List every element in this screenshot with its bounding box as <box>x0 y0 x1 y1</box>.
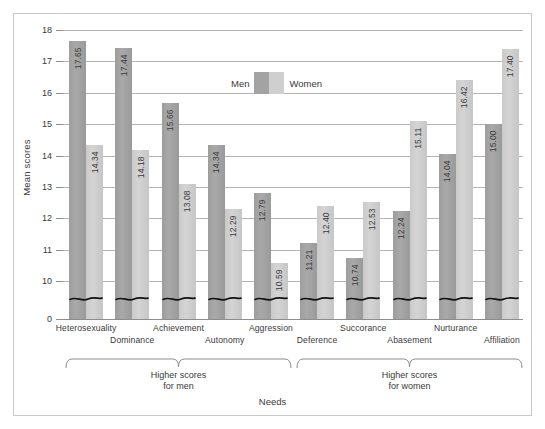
bar-value-label: 17.44 <box>120 54 129 76</box>
bar-value-label: 14.34 <box>212 151 221 173</box>
x-axis-label-heterosexuality: Heterosexuality <box>56 323 117 333</box>
bar-women-achievement: 13.08 <box>179 184 196 319</box>
y-tick-mark <box>56 124 63 125</box>
bar-value-label: 15.66 <box>166 110 175 132</box>
y-tick-mark <box>56 187 63 188</box>
bar-value-label: 13.08 <box>183 191 192 213</box>
bar-women-aggression: 10.59 <box>271 263 288 320</box>
bar-value-label: 14.34 <box>90 151 99 173</box>
y-tick-label: 18 <box>26 26 52 35</box>
bar-women-autonomy: 12.29 <box>225 209 242 319</box>
y-tick-mark <box>56 93 63 94</box>
bar-value-label: 17.40 <box>506 55 515 77</box>
bracket-label-women: Higher scoresfor women <box>382 370 438 392</box>
bar-value-label: 15.00 <box>489 130 498 152</box>
bar-value-label: 12.24 <box>397 217 406 239</box>
y-tick-label: 13 <box>26 182 52 191</box>
bar-women-deference: 12.40 <box>317 206 334 319</box>
bar-value-label: 12.53 <box>368 208 377 230</box>
x-axis-label-affiliation: Affiliation <box>484 335 520 345</box>
bracket-caption-line2: for men <box>151 381 207 392</box>
bar-value-label: 14.18 <box>137 156 146 178</box>
y-tick-mark <box>56 218 63 219</box>
x-axis-label-deference: Deference <box>297 335 338 345</box>
legend-swatch-women <box>269 72 284 94</box>
legend-swatch-men <box>254 72 269 94</box>
bar-value-label: 10.59 <box>275 269 284 291</box>
bracket-label-men: Higher scoresfor men <box>151 370 207 392</box>
bar-value-label: 11.21 <box>304 250 313 271</box>
x-axis-label-nurturance: Nurturance <box>434 323 478 333</box>
x-axis-label-autonomy: Autonomy <box>205 335 245 345</box>
bar-men-affiliation: 15.00 <box>485 124 502 319</box>
x-axis-label-succorance: Succorance <box>340 323 386 333</box>
bar-women-heterosexuality: 14.34 <box>86 145 103 319</box>
legend-label-women: Women <box>284 78 327 89</box>
bracket-higher-scores-men <box>65 357 292 370</box>
x-axis-title: Needs <box>14 396 531 407</box>
bar-value-label: 12.40 <box>321 212 330 234</box>
bar-women-dominance: 14.18 <box>132 150 149 319</box>
y-tick-label: 12 <box>26 214 52 223</box>
x-axis-label-abasement: Abasement <box>387 335 431 345</box>
y-tick-label: 14 <box>26 151 52 160</box>
y-tick-mark <box>56 250 63 251</box>
y-tick-mark <box>56 30 63 31</box>
bracket-caption-line1: Higher scores <box>382 370 438 381</box>
y-tick-label: 15 <box>26 120 52 129</box>
y-tick-mark <box>56 156 63 157</box>
bar-men-succorance: 10.74 <box>346 258 363 319</box>
y-tick-mark <box>56 61 63 62</box>
y-tick-mark <box>56 281 63 282</box>
bar-men-achievement: 15.66 <box>162 103 179 319</box>
bracket-caption-line1: Higher scores <box>151 370 207 381</box>
bar-men-autonomy: 14.34 <box>208 145 225 319</box>
y-tick-label: 16 <box>26 88 52 97</box>
x-axis-label-aggression: Aggression <box>249 323 293 333</box>
x-axis-label-dominance: Dominance <box>110 335 154 345</box>
y-tick-mark <box>56 319 63 320</box>
bar-men-heterosexuality: 17.65 <box>69 41 86 319</box>
bar-men-abasement: 12.24 <box>393 211 410 319</box>
x-axis-label-achievement: Achievement <box>153 323 204 333</box>
bar-women-nurturance: 16.42 <box>456 80 473 319</box>
bar-men-nurturance: 14.04 <box>439 154 456 319</box>
chart-legend: Men Women <box>226 72 327 94</box>
bar-women-affiliation: 17.40 <box>502 49 519 319</box>
bar-value-label: 10.74 <box>351 264 360 286</box>
bar-men-aggression: 12.79 <box>254 193 271 319</box>
bar-value-label: 15.11 <box>414 127 423 148</box>
legend-label-men: Men <box>226 78 254 89</box>
y-tick-label: 10 <box>26 277 52 286</box>
bar-men-deference: 11.21 <box>300 243 317 319</box>
y-tick-label: 11 <box>26 245 52 254</box>
bracket-caption-line2: for women <box>382 381 438 392</box>
chart-figure: Mean scores 1817161514131211100 17.6514.… <box>13 13 532 416</box>
bracket-higher-scores-women <box>296 357 523 370</box>
bar-value-label: 12.29 <box>229 216 238 238</box>
bar-women-abasement: 15.11 <box>410 121 427 319</box>
plot-area: 17.6514.3417.4414.1815.6613.0814.3412.29… <box>63 14 525 319</box>
bar-value-label: 14.04 <box>443 161 452 183</box>
y-tick-label: 0 <box>26 315 52 324</box>
bar-women-succorance: 12.53 <box>363 202 380 319</box>
bar-men-dominance: 17.44 <box>115 48 132 319</box>
x-axis-line <box>63 319 523 320</box>
y-tick-label: 17 <box>26 57 52 66</box>
bar-value-label: 17.65 <box>73 47 82 69</box>
bar-value-label: 16.42 <box>460 86 469 108</box>
bar-value-label: 12.79 <box>258 200 267 222</box>
